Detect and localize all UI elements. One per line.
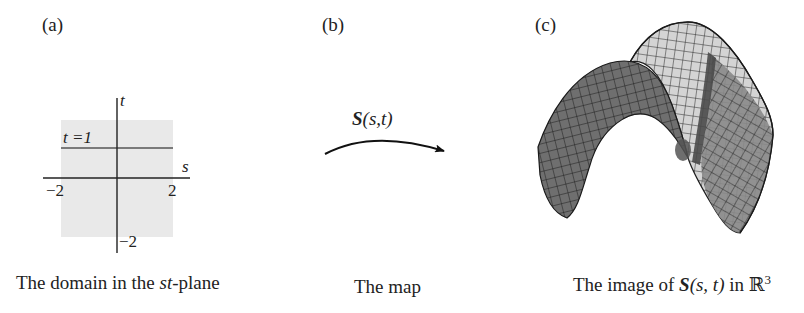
figure-canvas: t s t =1 −2 2 −2: [0, 0, 804, 313]
caption-a-italic: st: [160, 272, 173, 293]
s-axis-label: s: [182, 157, 189, 176]
caption-a-suffix: -plane: [172, 272, 219, 293]
caption-b: The map: [354, 276, 421, 298]
caption-c-exponent: 3: [765, 272, 772, 287]
s-tick-minus-2: −2: [46, 181, 64, 200]
map-arrow: [325, 141, 444, 154]
map-arrow-group: [325, 141, 444, 154]
map-args: (s,t): [363, 108, 393, 129]
s-tick-2: 2: [168, 181, 177, 200]
caption-c-args: (s, t): [690, 274, 725, 295]
map-label: S(s,t): [352, 108, 393, 130]
caption-c: The image of S(s, t) in ℝ3: [573, 272, 771, 296]
map-symbol: S: [352, 108, 363, 129]
caption-c-prefix: The image of: [573, 274, 679, 295]
caption-a: The domain in the st-plane: [16, 272, 220, 294]
caption-a-prefix: The domain in the: [16, 272, 160, 293]
t-axis-label: t: [120, 91, 126, 110]
caption-c-mid: in: [724, 274, 748, 295]
saddle-surface: [538, 22, 773, 233]
caption-c-symbol: S: [679, 274, 690, 295]
t-tick-minus-2: −2: [119, 232, 137, 251]
t-equals-1-label: t =1: [63, 128, 92, 147]
domain-diagram: t s t =1 −2 2 −2: [43, 91, 190, 253]
surface-saddle-center: [675, 139, 691, 161]
caption-c-space: ℝ: [749, 274, 765, 295]
